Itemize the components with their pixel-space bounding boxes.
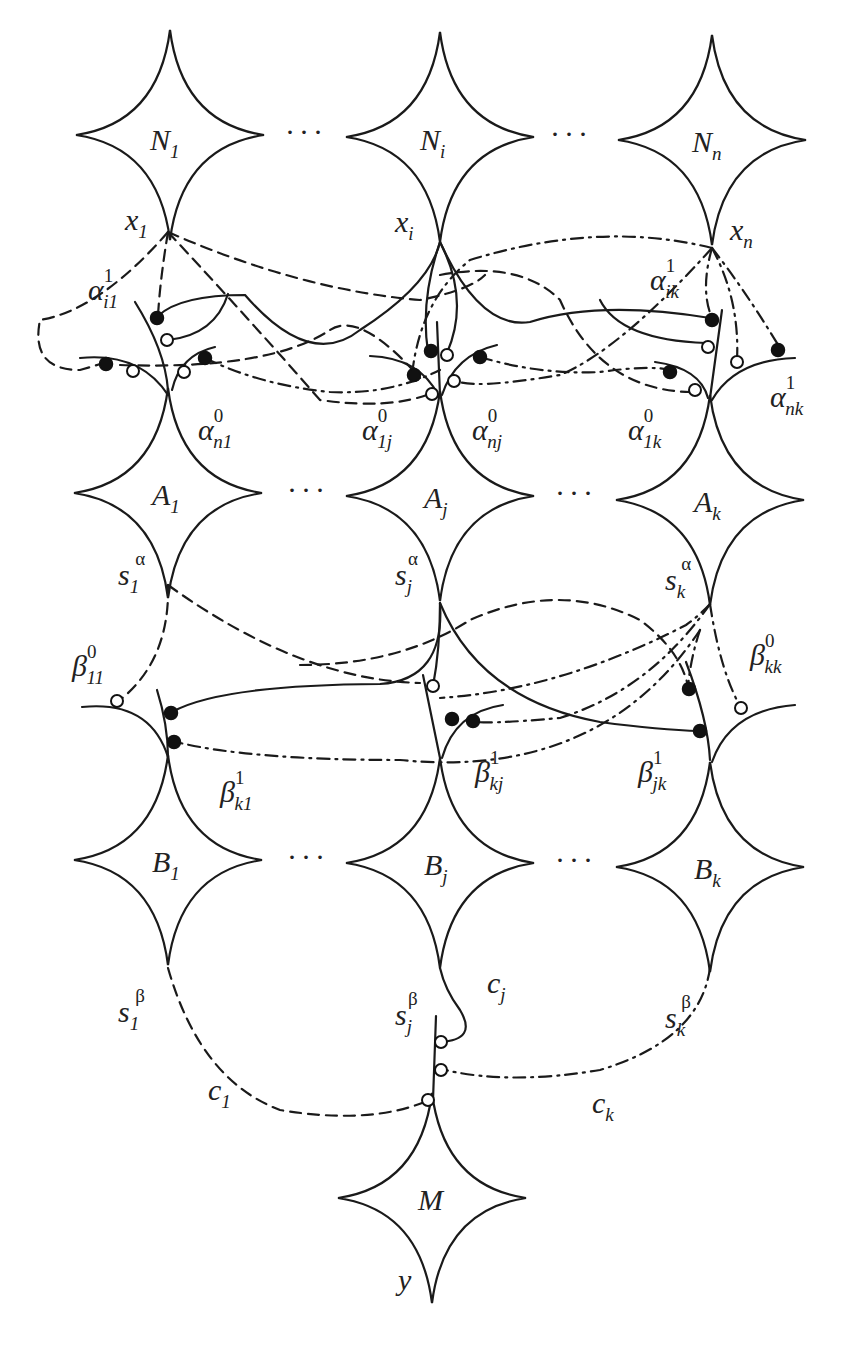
label-alpha-1j: α01j (362, 405, 392, 452)
filled-circle-icon (168, 736, 181, 749)
open-circle-icon (441, 349, 453, 361)
edge-xi-Ak-open (600, 300, 706, 343)
open-circle-icon (435, 1036, 447, 1048)
port-x1: x1 (124, 203, 148, 242)
edge-xn-Ak-filled2 (480, 357, 670, 372)
beta-receptors (82, 662, 795, 762)
edge-sk-Bj-filled (473, 604, 710, 722)
filled-circle-icon (706, 314, 719, 327)
edge-cj (440, 968, 466, 1042)
port-s1-beta: s1β (118, 985, 145, 1034)
edge-sj-B1 (172, 603, 440, 712)
edge-xi-A1-open (168, 294, 228, 340)
beta-markers (111, 680, 747, 749)
label-ck: ck (592, 1086, 614, 1125)
label-alpha-n1: α0n1 (198, 405, 232, 452)
edge-sk-Bk-open (710, 604, 740, 706)
port-s1-alpha: s1α (118, 548, 145, 597)
label-Bj: Bj (424, 848, 448, 887)
edge-s1-Bj (168, 585, 420, 683)
filled-circle-icon (165, 707, 178, 720)
label-alpha-1k: α01k (628, 405, 662, 452)
edge-xn-nk (712, 248, 780, 348)
filled-circle-icon (446, 713, 459, 726)
filled-circle-icon (151, 312, 164, 325)
port-sj-beta: sjβ (395, 988, 418, 1037)
filled-circle-icon (408, 369, 421, 382)
label-beta-11: β011 (71, 641, 104, 688)
ellipsis-B-right: ··· (555, 843, 597, 876)
open-circle-icon (422, 1094, 434, 1106)
label-A1: A1 (150, 478, 180, 517)
edge-xn-nk-open (712, 248, 737, 360)
label-beta-jk: β1jk (637, 747, 667, 794)
label-beta-kj: β1kj (474, 747, 503, 794)
filled-circle-icon (683, 683, 696, 696)
label-Ni: Ni (419, 123, 445, 162)
label-alpha-nk: α1nk (770, 372, 804, 419)
edge-x1-Aj-open (168, 232, 432, 404)
label-cj: cj (487, 966, 506, 1005)
port-xi: xi (394, 205, 414, 244)
label-alpha-nj: α0nj (472, 405, 502, 452)
receptor-A1-a (80, 357, 168, 395)
ellipsis-B-left: ··· (287, 840, 329, 873)
open-circle-icon (178, 366, 190, 378)
ellipsis-N-right: ··· (550, 117, 592, 150)
receptor-Bk-right (712, 705, 795, 762)
label-N1: N1 (149, 123, 180, 162)
edge-c1 (168, 968, 427, 1116)
label-alpha-ik: α1ik (650, 255, 680, 302)
open-circle-icon (427, 680, 439, 692)
receptor-B1-vert (157, 690, 168, 757)
edge-s1-Bk (300, 600, 688, 686)
open-circle-icon (448, 375, 460, 387)
open-circle-icon (127, 365, 139, 377)
ellipsis-A-right: ··· (555, 476, 597, 509)
edge-x1-A1-filled (158, 232, 168, 316)
filled-circle-icon (694, 725, 707, 738)
filled-circle-icon (199, 352, 212, 365)
edge-s1-B1 (120, 585, 168, 700)
dashed-edges-from-s1 (120, 585, 688, 700)
open-circle-icon (735, 702, 747, 714)
filled-circle-icon (474, 351, 487, 364)
label-B1: B1 (152, 845, 180, 884)
filled-circle-icon (664, 366, 677, 379)
open-circle-icon (702, 341, 714, 353)
filled-circle-icon (772, 344, 785, 357)
receptor-B1-left (82, 706, 168, 757)
receptor-M-vert (433, 1016, 436, 1100)
open-circle-icon (426, 388, 438, 400)
ellipsis-N-left: ··· (285, 115, 327, 148)
label-c1: c1 (208, 1073, 231, 1112)
label-Aj: Aj (422, 481, 448, 520)
composition-diagram: N1 Ni Nn ··· ··· x1 xi xn A1 Aj Ak ··· ·… (0, 0, 851, 1351)
receptor-Aj-vert (437, 322, 440, 395)
edge-x1-Aj-filled-top (168, 232, 485, 300)
filled-circle-icon (425, 345, 438, 358)
port-sk-beta: skβ (665, 991, 691, 1040)
open-circle-icon (435, 1064, 447, 1076)
port-xn: xn (729, 213, 753, 252)
open-circle-icon (731, 356, 743, 368)
port-sk-alpha: skα (665, 553, 691, 602)
edge-xi-A1-filled (158, 242, 440, 344)
alpha-markers (100, 312, 785, 401)
ellipsis-A-left: ··· (287, 473, 329, 506)
receptor-Bk-vert (686, 662, 710, 760)
filled-circle-icon (100, 358, 113, 371)
label-beta-k1: β1k1 (219, 767, 252, 814)
label-Ak: Ak (692, 485, 721, 524)
open-circle-icon (111, 695, 123, 707)
open-circle-icon (161, 334, 173, 346)
label-Bk: Bk (694, 852, 721, 891)
label-alpha-i1: α1i1 (88, 265, 118, 312)
label-Nn: Nn (691, 125, 722, 164)
open-circle-icon (689, 384, 701, 396)
edge-xn-Ak-filled (706, 248, 712, 318)
port-sj-alpha: sjα (395, 548, 418, 597)
filled-circle-icon (467, 715, 480, 728)
port-y: y (395, 1263, 412, 1296)
dashed-edges-from-x1 (38, 232, 690, 404)
